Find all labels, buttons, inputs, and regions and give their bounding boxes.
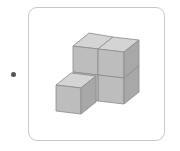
cube-stack-figure (0, 0, 180, 151)
cube-front-left (56, 73, 96, 114)
